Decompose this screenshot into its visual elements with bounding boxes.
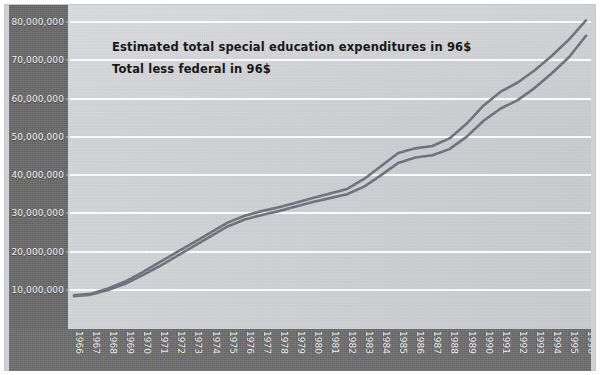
y-tick-label: 50,000,000 [11, 132, 64, 142]
x-tick-label-1968: 1968 [108, 331, 117, 371]
x-tick-label-1982: 1982 [347, 331, 356, 371]
legend: Estimated total special education expend… [112, 36, 532, 80]
y-tick-mark [66, 22, 70, 23]
y-tick-mark [66, 136, 70, 137]
legend-label-total: Estimated total special education expend… [112, 36, 532, 58]
x-tick-label-1992: 1992 [517, 331, 526, 371]
x-tick-label-1990: 1990 [483, 331, 492, 371]
y-tick-mark [66, 175, 70, 176]
x-tick-label-1979: 1979 [295, 331, 304, 371]
x-tick-label-1978: 1978 [278, 331, 287, 371]
x-tick-label-1967: 1967 [91, 331, 100, 371]
y-tick-mark [66, 251, 70, 252]
x-tick-label-1993: 1993 [534, 331, 543, 371]
x-tick-label-1984: 1984 [381, 331, 390, 371]
legend-label-less-federal: Total less federal in 96$ [112, 58, 532, 80]
x-tick-label-1986: 1986 [415, 331, 424, 371]
x-tick-label-1974: 1974 [210, 331, 219, 371]
x-tick-label-1996: 1996 [586, 331, 592, 371]
y-tick-label: 80,000,000 [11, 17, 64, 27]
x-tick-label-1970: 1970 [142, 331, 151, 371]
x-tick-label-1971: 1971 [159, 331, 168, 371]
x-tick-label-1987: 1987 [432, 331, 441, 371]
y-tick-label: 40,000,000 [11, 170, 64, 180]
x-tick-label-1989: 1989 [466, 331, 475, 371]
x-tick-label-1981: 1981 [330, 331, 339, 371]
y-tick-label: 20,000,000 [11, 247, 64, 257]
chart-figure: 10,000,00020,000,00030,000,00040,000,000… [0, 0, 600, 375]
y-tick-mark [66, 60, 70, 61]
x-tick-label-1983: 1983 [364, 331, 373, 371]
x-tick-label-1969: 1969 [125, 331, 134, 371]
x-tick-label-1975: 1975 [227, 331, 236, 371]
x-tick-label-1994: 1994 [551, 331, 560, 371]
x-tick-label-1980: 1980 [312, 331, 321, 371]
x-tick-label-1991: 1991 [500, 331, 509, 371]
x-tick-label-1966: 1966 [74, 331, 83, 371]
y-axis: 10,000,00020,000,00030,000,00040,000,000… [9, 5, 68, 329]
x-tick-label-1988: 1988 [449, 331, 458, 371]
x-axis: 1966196719681969197019711972197319741975… [9, 329, 591, 371]
x-tick-label-1985: 1985 [398, 331, 407, 371]
y-tick-mark [66, 98, 70, 99]
y-tick-mark [66, 213, 70, 214]
y-tick-label: 30,000,000 [11, 208, 64, 218]
x-tick-label-1977: 1977 [261, 331, 270, 371]
x-tick-label-1995: 1995 [568, 331, 577, 371]
x-tick-label-1973: 1973 [193, 331, 202, 371]
x-tick-label-1976: 1976 [244, 331, 253, 371]
y-tick-mark [66, 290, 70, 291]
y-tick-label: 60,000,000 [11, 94, 64, 104]
x-tick-label-1972: 1972 [176, 331, 185, 371]
y-tick-label: 70,000,000 [11, 55, 64, 65]
y-tick-label: 10,000,000 [11, 285, 64, 295]
